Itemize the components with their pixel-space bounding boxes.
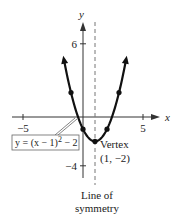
equation-prefix: y = (x − 1) [15,137,58,149]
data-point [68,90,73,95]
y-axis-label: y [78,8,84,20]
curve-arrow-right-icon [122,56,129,65]
x-axis-label: x [164,111,170,123]
axes: x y [12,8,170,178]
vertex-label: Vertex [100,138,129,150]
equation-suffix: − 2 [62,137,78,148]
equation-leader-line [58,119,77,135]
data-point [104,127,109,132]
x-tick-label: −5 [17,122,29,134]
vertex-coordinates: (1, −2) [100,152,130,165]
x-tick-label: 5 [140,122,146,134]
curve-arrow-left-icon [61,56,68,65]
vertex-point [92,139,97,144]
symmetry-label-line1: Line of [81,189,113,201]
y-tick-label: −4 [65,160,77,172]
data-point [80,127,85,132]
equation-text: y = (x − 1)2 − 2 [15,135,78,149]
y-axis-arrow-icon [80,22,86,31]
equation-leader-line [55,118,75,135]
x-axis-arrow-icon [151,114,160,120]
data-point [116,90,121,95]
symmetry-label-line2: symmetry [75,202,119,214]
y-tick-label: 6 [72,38,78,50]
parabola-chart: x y −556−4 y = (x − 1)2 − 2 Vertex (1, −… [0,0,181,222]
